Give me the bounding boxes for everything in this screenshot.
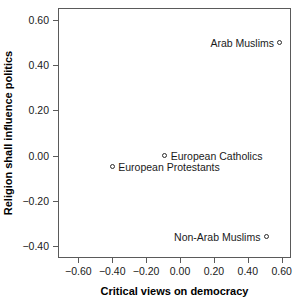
x-tick-mark bbox=[180, 258, 181, 263]
x-tick-mark bbox=[112, 258, 113, 263]
x-tick-label: −0.40 bbox=[99, 265, 126, 277]
x-tick-label: 0.40 bbox=[238, 265, 258, 277]
data-point-label: Arab Muslims bbox=[210, 38, 274, 49]
x-tick-mark bbox=[282, 258, 283, 263]
y-tick-label: −0.40 bbox=[22, 240, 49, 252]
data-point-label: Non-Arab Muslims bbox=[174, 231, 260, 242]
y-tick-label: −0.20 bbox=[22, 195, 49, 207]
y-tick-mark bbox=[53, 246, 58, 247]
scatter-chart: −0.60−0.40−0.200.000.200.400.60 0.600.40… bbox=[0, 0, 303, 307]
data-point[interactable] bbox=[264, 234, 269, 239]
y-axis-title-text: Religion shall influence politics bbox=[2, 51, 14, 215]
y-tick-label: 0.20 bbox=[29, 104, 49, 116]
y-tick-label: 0.60 bbox=[29, 14, 49, 26]
y-tick-mark bbox=[53, 201, 58, 202]
x-tick-label: 0.20 bbox=[204, 265, 224, 277]
x-tick-mark bbox=[146, 258, 147, 263]
x-tick-mark bbox=[214, 258, 215, 263]
x-tick-mark bbox=[248, 258, 249, 263]
x-tick-mark bbox=[78, 258, 79, 263]
x-tick-label: −0.60 bbox=[65, 265, 92, 277]
y-axis-title: Religion shall influence politics bbox=[0, 8, 16, 258]
y-tick-mark bbox=[53, 110, 58, 111]
data-point-label: European Catholics bbox=[171, 150, 263, 161]
x-tick-label: −0.20 bbox=[133, 265, 160, 277]
x-tick-label: 0.60 bbox=[271, 265, 291, 277]
data-point-label: European Protestants bbox=[118, 162, 220, 173]
x-tick-label: 0.00 bbox=[170, 265, 190, 277]
x-axis-title: Critical views on democracy bbox=[58, 285, 291, 297]
y-tick-mark bbox=[53, 20, 58, 21]
y-tick-label: 0.00 bbox=[29, 150, 49, 162]
y-tick-mark bbox=[53, 156, 58, 157]
y-tick-mark bbox=[53, 65, 58, 66]
y-tick-label: 0.40 bbox=[29, 59, 49, 71]
